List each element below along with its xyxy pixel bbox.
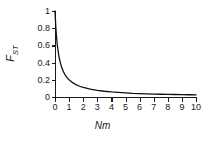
x-tick (154, 98, 155, 102)
y-axis-label-main: F (4, 55, 16, 62)
x-axis-label: Nm (0, 120, 205, 131)
x-tick (126, 98, 127, 102)
x-tick (182, 98, 183, 102)
y-tick-label: 0 (24, 92, 50, 102)
x-tick (55, 98, 56, 102)
x-tick (97, 98, 98, 102)
y-tick (52, 97, 56, 98)
y-tick-label: 0.6 (24, 40, 50, 50)
x-tick (83, 98, 84, 102)
x-tick (168, 98, 169, 102)
y-axis-label: FST (4, 24, 19, 84)
y-tick-label: 0.8 (24, 23, 50, 33)
y-tick-label: 1 (24, 6, 50, 16)
x-tick (140, 98, 141, 102)
chart-figure: 012345678910 00.20.40.60.81 Nm FST (0, 0, 205, 142)
x-tick (69, 98, 70, 102)
x-tick-label: 10 (186, 102, 205, 113)
curve-svg (55, 11, 196, 97)
x-tick (111, 98, 112, 102)
plot-area (55, 11, 196, 97)
x-tick (196, 98, 197, 102)
series-line-fst (55, 11, 196, 95)
y-tick-label: 0.4 (24, 58, 50, 68)
y-axis-label-subscript: ST (11, 45, 20, 55)
y-tick-label: 0.2 (24, 75, 50, 85)
